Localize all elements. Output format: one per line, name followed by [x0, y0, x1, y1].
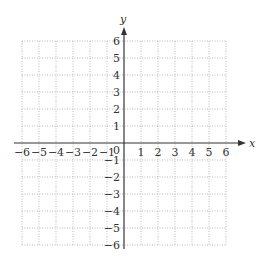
y-axis-arrowhead-icon [121, 27, 127, 35]
x-axis-arrowhead-icon [238, 140, 246, 146]
x-tick-label: −3 [65, 146, 81, 159]
y-axis-label: y [119, 13, 127, 26]
axes [14, 27, 246, 249]
y-tick-label: 4 [113, 69, 120, 82]
coordinate-plane: −6−5−4−3−2−1123456 −6−5−4−3−2−1123456 0 … [0, 0, 261, 265]
y-tick-label: 3 [113, 86, 120, 99]
x-tick-label: 2 [155, 146, 162, 159]
x-tick-label: 4 [189, 146, 196, 159]
y-tick-label: −2 [104, 171, 120, 184]
y-tick-label: −6 [104, 239, 120, 252]
x-axis-label: x [249, 137, 256, 150]
y-tick-label: −4 [104, 205, 120, 218]
x-tick-label: −5 [31, 146, 47, 159]
x-tick-label: −2 [82, 146, 98, 159]
y-tick-label: −3 [104, 188, 120, 201]
y-tick-label: 6 [113, 35, 120, 48]
y-tick-label: 5 [113, 52, 120, 65]
x-tick-label: 6 [223, 146, 230, 159]
x-tick-label: 3 [172, 146, 179, 159]
y-tick-label: −5 [104, 222, 120, 235]
y-tick-label: 1 [113, 120, 120, 133]
y-tick-label: 2 [113, 103, 120, 116]
x-tick-labels: −6−5−4−3−2−1123456 [14, 146, 230, 159]
x-tick-label: −4 [48, 146, 64, 159]
origin-label: 0 [113, 144, 120, 157]
x-tick-label: 5 [206, 146, 213, 159]
x-tick-label: 1 [138, 146, 145, 159]
x-tick-label: −6 [14, 146, 30, 159]
